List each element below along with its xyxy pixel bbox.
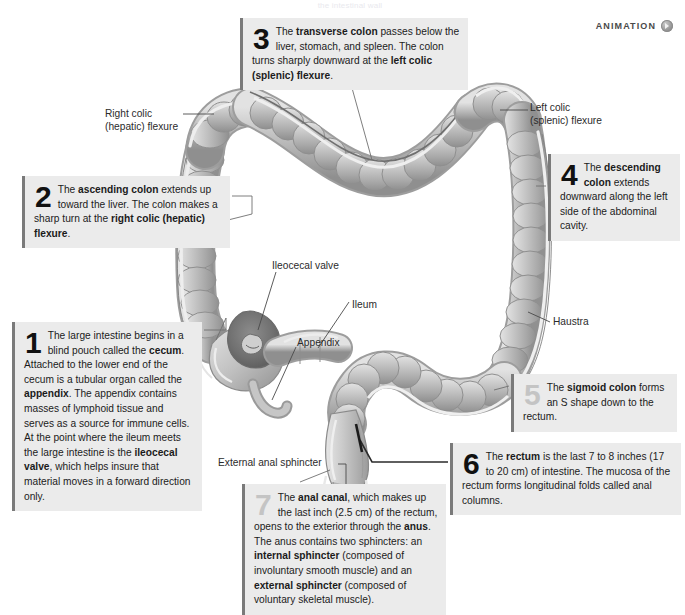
callout-3-text: The transverse colon passes below the li… (252, 25, 460, 83)
callout-4-number: 4 (561, 162, 578, 188)
transverse-colon (250, 92, 486, 191)
callout-7: 7 The anal canal, which makes up the las… (242, 484, 446, 615)
callout-1: 1 The large intestine begins in a blind … (12, 322, 202, 511)
callout-7-text: The anal canal, which makes up the last … (254, 491, 438, 608)
callout-6: 6 The rectum is the last 7 to 8 inches (… (450, 443, 681, 515)
top-faint-caption: the intestinal wall (200, 0, 500, 11)
label-haustra: Haustra (553, 315, 589, 328)
label-left-colic-flexure: Left colic (splenic) flexure (530, 101, 602, 127)
callout-3-number: 3 (253, 26, 270, 52)
callout-2-number: 2 (35, 184, 52, 210)
play-orb-icon[interactable] (661, 20, 673, 32)
callout-5-text: The sigmoid colon forms an S shape down … (523, 381, 669, 425)
label-left-colic-line1: Left colic (530, 102, 570, 113)
callout-6-text: The rectum is the last 7 to 8 inches (17… (462, 450, 673, 508)
animation-badge[interactable]: ANIMATION (596, 20, 673, 32)
leader-lines (183, 72, 550, 492)
callout-2-text: The ascending colon extends up toward th… (34, 183, 222, 241)
label-external-anal-sphincter: External anal sphincter (218, 456, 322, 469)
callout-2: 2 The ascending colon extends up toward … (22, 176, 230, 248)
callout-3: 3 The transverse colon passes below the … (240, 18, 468, 90)
callout-4: 4 The descending colon extends downward … (548, 154, 680, 241)
animation-badge-label: ANIMATION (596, 21, 656, 31)
callout-1-text: The large intestine begins in a blind po… (24, 329, 194, 504)
appendix (253, 384, 287, 413)
label-ileum: Ileum (352, 298, 377, 311)
label-ileocecal-valve: Ileocecal valve (272, 259, 339, 272)
callout-6-number: 6 (463, 451, 480, 477)
label-right-colic-line2: (hepatic) flexure (105, 121, 178, 132)
label-left-colic-line2: (splenic) flexure (530, 115, 602, 126)
label-right-colic-flexure: Right colic (hepatic) flexure (105, 107, 178, 133)
descending-colon (492, 120, 551, 386)
label-appendix: Appendix (297, 336, 339, 349)
callout-5-number: 5 (524, 382, 541, 408)
label-right-colic-line1: Right colic (105, 108, 152, 119)
callout-7-number: 7 (255, 492, 272, 518)
callout-1-number: 1 (25, 330, 42, 356)
callout-5: 5 The sigmoid colon forms an S shape dow… (511, 374, 677, 432)
